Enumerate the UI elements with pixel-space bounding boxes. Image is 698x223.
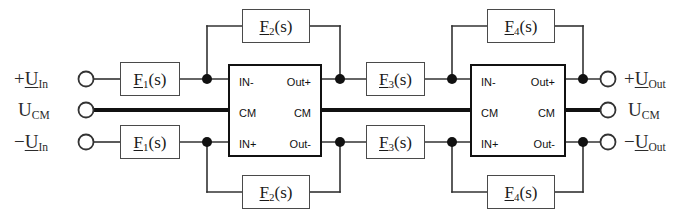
label-output-common-mode: UCM (628, 100, 660, 119)
f3-bottom-arg: (s) (394, 133, 412, 152)
block-f1-bottom[interactable]: F1(s) (120, 125, 180, 159)
junction-dot-out-neg (578, 137, 588, 147)
output-neg-sign: − (624, 131, 635, 152)
input-cm-subscript: CM (32, 109, 50, 121)
block-f1-top[interactable]: F1(s) (120, 62, 180, 96)
output-cm-subscript: CM (642, 109, 660, 121)
terminal-in-pos (79, 72, 94, 87)
amp2-port-cm-in: CM (481, 108, 498, 119)
output-neg-symbol: U (635, 131, 649, 152)
input-neg-sign: − (14, 131, 25, 152)
block-f3-bottom[interactable]: F3(s) (366, 125, 425, 159)
block-f2-top-label: F2(s) (260, 18, 293, 35)
amp2-port-cm-out: CM (538, 108, 555, 119)
junction-dot-out-pos (578, 74, 588, 84)
junction-dot-amp1-outplus (335, 74, 345, 84)
block-f4-bottom[interactable]: F4(s) (487, 175, 555, 209)
f3-bottom-index: 3 (389, 141, 395, 153)
amp2-port-in-plus: IN+ (481, 139, 498, 150)
f3-bottom-symbol: F (379, 133, 388, 152)
f4-bottom-index: 4 (514, 191, 520, 203)
f2-bottom-index: 2 (269, 191, 275, 203)
input-pos-symbol: U (25, 68, 39, 89)
f4-top-index: 4 (514, 25, 520, 37)
terminal-out-neg (601, 135, 616, 150)
amp2-port-in-minus: IN- (481, 77, 496, 88)
block-f2-bottom-label: F2(s) (260, 184, 293, 201)
f1-top-symbol: F (134, 70, 143, 89)
terminal-out-pos (601, 72, 616, 87)
f4-top-symbol: F (505, 17, 514, 36)
junction-dot-in-neg (202, 137, 212, 147)
wiring-layer (0, 0, 698, 223)
f1-bottom-arg: (s) (149, 133, 167, 152)
f2-bottom-arg: (s) (275, 183, 293, 202)
amp1-port-in-minus: IN- (239, 77, 254, 88)
block-f4-top-label: F4(s) (505, 18, 538, 35)
amp1-port-out-minus: Out- (290, 139, 311, 150)
f3-top-symbol: F (379, 70, 388, 89)
f2-bottom-symbol: F (260, 183, 269, 202)
input-cm-symbol: U (18, 99, 32, 120)
f1-bottom-index: 1 (143, 141, 149, 153)
amp1-port-out-plus: Out+ (287, 77, 311, 88)
input-pos-sign: + (14, 68, 25, 89)
output-pos-subscript: Out (648, 78, 665, 90)
f4-bottom-symbol: F (505, 183, 514, 202)
f2-top-arg: (s) (275, 17, 293, 36)
block-f1-top-label: F1(s) (134, 71, 167, 88)
junction-dot-amp2-inminus (447, 74, 457, 84)
label-input-positive: +UIn (14, 69, 48, 88)
block-f3-top-label: F3(s) (379, 71, 412, 88)
input-neg-symbol: U (25, 131, 39, 152)
f3-top-arg: (s) (394, 70, 412, 89)
junction-dot-in-pos (202, 74, 212, 84)
f4-top-arg: (s) (520, 17, 538, 36)
terminal-in-cm (79, 103, 94, 118)
output-cm-symbol: U (628, 99, 642, 120)
block-f4-bottom-label: F4(s) (505, 184, 538, 201)
block-f3-top[interactable]: F3(s) (366, 62, 425, 96)
f4-bottom-arg: (s) (520, 183, 538, 202)
block-f4-top[interactable]: F4(s) (487, 9, 555, 43)
amp2-port-out-plus: Out+ (531, 77, 555, 88)
label-output-negative: −UOut (624, 132, 666, 151)
block-f1-bottom-label: F1(s) (134, 134, 167, 151)
junction-dot-amp1-outminus (335, 137, 345, 147)
output-neg-subscript: Out (648, 141, 665, 153)
f1-top-index: 1 (143, 78, 149, 90)
block-f3-bottom-label: F3(s) (379, 134, 412, 151)
block-f2-bottom[interactable]: F2(s) (242, 175, 310, 209)
f1-bottom-symbol: F (134, 133, 143, 152)
input-neg-subscript: In (38, 141, 48, 153)
terminal-in-neg (79, 135, 94, 150)
output-pos-symbol: U (635, 68, 649, 89)
f1-top-arg: (s) (149, 70, 167, 89)
amp1-port-in-plus: IN+ (239, 139, 256, 150)
amplifier-stage-2[interactable]: IN- CM IN+ Out+ CM Out- (470, 64, 566, 157)
amp1-port-cm-out: CM (294, 108, 311, 119)
label-input-negative: −UIn (14, 132, 48, 151)
amplifier-stage-1[interactable]: IN- CM IN+ Out+ CM Out- (228, 64, 322, 157)
terminal-out-cm (601, 103, 616, 118)
junction-dot-amp2-inplus (447, 137, 457, 147)
f2-top-index: 2 (269, 25, 275, 37)
amp1-port-cm-in: CM (239, 108, 256, 119)
output-pos-sign: + (624, 68, 635, 89)
block-f2-top[interactable]: F2(s) (242, 9, 310, 43)
input-pos-subscript: In (38, 78, 48, 90)
f3-top-index: 3 (389, 78, 395, 90)
circuit-diagram: +UIn UCM −UIn +UOut UCM −UOut F1(s) F1(s… (0, 0, 698, 223)
f2-top-symbol: F (260, 17, 269, 36)
label-input-common-mode: UCM (18, 100, 50, 119)
label-output-positive: +UOut (624, 69, 666, 88)
amp2-port-out-minus: Out- (534, 139, 555, 150)
